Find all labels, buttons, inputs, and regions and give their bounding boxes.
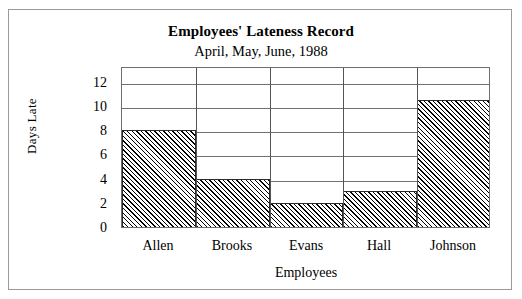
- x-tick-label: Allen: [121, 238, 195, 254]
- y-tick-label: 10: [71, 100, 107, 114]
- bar-divider: [417, 68, 418, 227]
- bar: [270, 203, 343, 227]
- x-axis-tick-labels: AllenBrooksEvansHallJohnson: [121, 238, 490, 258]
- x-tick-label: Johnson: [416, 238, 490, 254]
- y-tick-label: 8: [71, 124, 107, 138]
- plot-area: [121, 67, 490, 228]
- y-tick-label: 6: [71, 148, 107, 162]
- y-axis-title: Days Late: [24, 76, 40, 176]
- bar-divider: [343, 68, 344, 227]
- y-tick-label: 0: [71, 221, 107, 235]
- y-tick-label: 2: [71, 197, 107, 211]
- x-tick-label: Evans: [269, 238, 343, 254]
- bar-divider: [196, 68, 197, 227]
- bar: [196, 179, 270, 227]
- x-axis-title: Employees: [121, 265, 491, 281]
- y-tick-label: 12: [71, 76, 107, 90]
- figure-frame: Employees' Lateness Record April, May, J…: [8, 9, 512, 290]
- bar: [417, 100, 490, 227]
- x-tick-label: Hall: [342, 238, 416, 254]
- x-tick-label: Brooks: [195, 238, 269, 254]
- y-axis-tick-labels: 024681012: [71, 10, 107, 291]
- bars-group: [122, 68, 489, 227]
- y-tick-label: 4: [71, 173, 107, 187]
- bar-divider: [270, 68, 271, 227]
- bar: [122, 130, 196, 227]
- bar: [343, 191, 417, 227]
